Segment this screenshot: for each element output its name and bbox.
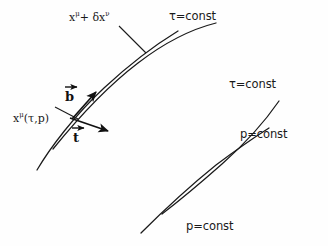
curve-tau-const-lower (141, 128, 269, 233)
label-tau-const-right: τ=const (229, 79, 276, 91)
diagram-canvas: xμ+ δxν τ=const τ=const p=const p=const … (0, 0, 328, 246)
label-vector-b: b (65, 90, 74, 103)
label-p-const-bottom: p=const (186, 221, 233, 233)
label-shifted-point-sup-nu: ν (105, 10, 109, 18)
label-shifted-point: xμ+ δxν (69, 12, 110, 23)
label-p-const-right: p=const (240, 129, 287, 141)
vector-b-arrow (72, 92, 96, 119)
leader-line-shifted-point (119, 26, 146, 53)
label-origin-point-args: (τ,p) (24, 112, 49, 125)
label-origin-point: xμ(τ,p) (13, 113, 49, 124)
label-vector-t: t (73, 131, 79, 144)
label-tau-const-top: τ=const (169, 11, 216, 23)
coordinate-grid-figure (0, 0, 328, 246)
label-shifted-point-delta: + δx (80, 11, 106, 24)
curve-p-const-left (37, 31, 178, 170)
